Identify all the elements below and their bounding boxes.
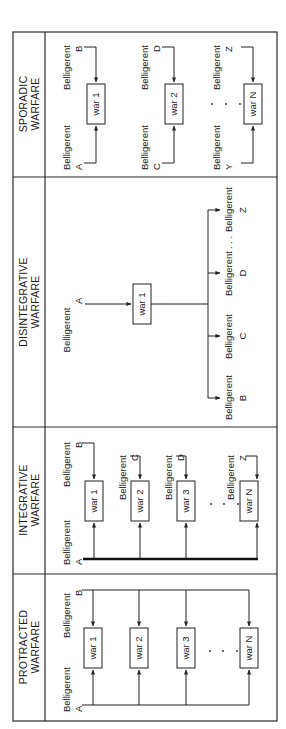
header-line1: SPORADIC	[17, 76, 29, 133]
sporadic-row-1: war 1 Belligerent A Belligerent B	[61, 45, 105, 170]
belligerent-letter: Z	[223, 46, 234, 52]
ellipsis: . . .	[223, 236, 234, 249]
sporadic-row-2: war 2 Belligerent C Belligerent D	[139, 45, 183, 170]
belligerent-label: Belligerent	[61, 307, 72, 352]
svg-text:war 2: war 2	[133, 636, 144, 660]
belligerent-label: Belligerent	[61, 667, 72, 712]
belligerent-label: Belligerent	[139, 45, 150, 90]
belligerent-letter: Z	[237, 455, 248, 461]
belligerent-letter: Z	[237, 207, 248, 213]
header-line1: DISINTEGRATIVE	[17, 257, 29, 347]
belligerent-letter: A	[73, 163, 84, 170]
header-line2: WARFARE	[29, 621, 41, 674]
belligerent-label: Belligerent	[163, 455, 174, 500]
belligerent-label: Belligerent	[211, 125, 222, 170]
belligerent-letter: A	[73, 705, 84, 712]
header-line1: INTEGRATIVE	[17, 464, 29, 535]
section-disintegrative: DISINTEGRATIVE WARFARE Belligerent A war…	[17, 187, 248, 420]
sporadic-row-n: war N Belligerent Y Belligerent Z	[211, 45, 262, 170]
svg-text:war 3: war 3	[180, 636, 191, 660]
svg-text:war 1: war 1	[87, 636, 98, 660]
belligerent-letter: C	[237, 332, 248, 339]
belligerent-label: Belligerent	[61, 125, 72, 170]
svg-text:war 3: war 3	[180, 489, 191, 513]
section-protracted: PROTRACTED WARFARE Belligerent B Bellige…	[17, 590, 258, 712]
header-disintegrative: DISINTEGRATIVE WARFARE	[17, 257, 41, 347]
warfare-types-diagram: SPORADIC WARFARE war 1 Belligerent A Bel…	[0, 0, 286, 729]
belligerent-letter: B	[73, 46, 84, 52]
ellipsis-dots	[210, 503, 239, 505]
belligerent-letter: D	[151, 45, 162, 52]
belligerent-letter: B	[73, 442, 84, 448]
header-sporadic: SPORADIC WARFARE	[17, 76, 41, 133]
header-line2: WARFARE	[29, 276, 41, 329]
header-protracted: PROTRACTED WARFARE	[17, 610, 41, 685]
belligerent-label: Belligerent	[223, 375, 234, 420]
belligerent-label: Belligerent	[223, 187, 234, 232]
belligerent-label: Belligerent	[61, 593, 72, 638]
belligerent-letter: B	[237, 395, 248, 401]
belligerent-letter: A	[73, 297, 84, 304]
header-line1: PROTRACTED	[17, 610, 29, 685]
belligerent-letter: D	[237, 269, 248, 276]
belligerent-label: Belligerent	[61, 520, 72, 565]
belligerent-letter: D	[175, 454, 186, 461]
svg-text:war 1: war 1	[88, 489, 99, 513]
header-integrative: INTEGRATIVE WARFARE	[17, 464, 41, 535]
svg-text:war N: war N	[247, 91, 258, 117]
belligerent-label: Belligerent	[139, 125, 150, 170]
belligerent-label: Belligerent	[223, 314, 234, 359]
belligerent-letter: B	[73, 590, 84, 596]
belligerent-label: Belligerent	[61, 442, 72, 487]
section-sporadic: SPORADIC WARFARE war 1 Belligerent A Bel…	[17, 45, 262, 170]
svg-text:war 2: war 2	[168, 92, 179, 116]
section-integrative: INTEGRATIVE WARFARE Belligerent A war 1 …	[17, 442, 258, 565]
belligerent-letter: C	[151, 163, 162, 170]
belligerent-label: Belligerent	[223, 251, 234, 296]
ellipsis-dots	[209, 650, 238, 652]
belligerent-letter: C	[129, 454, 140, 461]
header-line2: WARFARE	[29, 78, 41, 131]
svg-text:war N: war N	[243, 635, 254, 661]
svg-text:war 1: war 1	[90, 92, 101, 116]
svg-text:war 2: war 2	[134, 489, 145, 513]
ellipsis-dots	[211, 103, 241, 105]
belligerent-label: Belligerent	[61, 45, 72, 90]
svg-text:war 1: war 1	[136, 292, 147, 316]
belligerent-label: Belligerent	[225, 455, 236, 500]
belligerent-letter: Y	[223, 163, 234, 170]
svg-text:war N: war N	[243, 488, 254, 514]
belligerent-letter: A	[73, 558, 84, 565]
header-line2: WARFARE	[29, 474, 41, 527]
belligerent-label: Belligerent	[117, 455, 128, 500]
belligerent-label: Belligerent	[211, 45, 222, 90]
